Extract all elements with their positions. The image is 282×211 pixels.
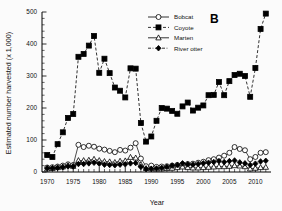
data-point — [71, 112, 76, 117]
y-axis-title: Estimated number harvested (x 1,000) — [4, 32, 13, 154]
data-point — [97, 70, 102, 75]
data-point — [138, 121, 143, 126]
data-point — [92, 144, 97, 149]
data-point — [118, 88, 123, 93]
data-point — [180, 104, 185, 109]
data-point — [133, 141, 138, 146]
y-tick-label: 100 — [26, 136, 37, 143]
data-point — [242, 148, 247, 153]
data-point — [128, 66, 133, 71]
data-point — [222, 153, 227, 158]
data-point — [164, 106, 169, 111]
data-point — [55, 142, 60, 147]
data-point — [190, 108, 195, 113]
data-point — [112, 150, 117, 155]
y-tick-label: 500 — [26, 8, 37, 15]
x-tick-labels: 197019751980198519901995200020052010 — [40, 178, 263, 185]
x-tick-label: 2005 — [222, 178, 237, 185]
x-tick-label: 1980 — [92, 178, 107, 185]
data-point — [97, 146, 102, 151]
data-point — [237, 71, 242, 76]
data-point — [149, 134, 154, 139]
y-tick-label: 400 — [26, 40, 37, 47]
data-point — [92, 34, 97, 39]
legend-marker — [156, 15, 161, 20]
x-tick-label: 1990 — [144, 178, 159, 185]
x-axis-title: Year — [150, 198, 165, 207]
panel-label: B — [210, 12, 219, 26]
legend-label: Bobcat — [174, 13, 194, 20]
data-point — [170, 108, 175, 113]
data-point — [206, 93, 211, 98]
y-tick-label: 200 — [26, 104, 37, 111]
legend-marker — [156, 25, 161, 30]
x-tick-label: 1970 — [40, 178, 55, 185]
data-point — [102, 56, 107, 61]
data-point — [185, 100, 190, 105]
data-point — [81, 51, 86, 56]
data-point — [50, 154, 55, 159]
data-point — [66, 115, 71, 120]
x-tick-label: 2010 — [248, 178, 263, 185]
data-point — [258, 26, 263, 31]
y-tick-label: 0 — [33, 168, 37, 175]
data-point — [232, 145, 237, 150]
data-point — [144, 139, 149, 144]
figure-panel-b: 197019751980198519901995200020052010 010… — [0, 0, 282, 211]
x-tick-label: 1995 — [170, 178, 185, 185]
data-point — [227, 150, 232, 155]
data-point — [128, 145, 133, 150]
data-point — [232, 73, 237, 78]
data-point — [159, 106, 164, 111]
data-point — [211, 92, 216, 97]
data-point — [216, 80, 221, 85]
data-point — [107, 148, 112, 153]
data-point — [222, 93, 227, 98]
data-point — [154, 118, 159, 123]
data-point — [138, 156, 143, 161]
data-point — [201, 103, 206, 108]
legend-label: Marten — [174, 34, 194, 41]
legend-label: River otter — [174, 45, 203, 52]
data-point — [263, 150, 268, 155]
data-point — [45, 153, 50, 158]
data-point — [248, 94, 253, 99]
data-point — [112, 85, 117, 90]
data-point — [196, 105, 201, 110]
data-point — [227, 79, 232, 84]
data-point — [76, 142, 81, 147]
data-point — [107, 71, 112, 76]
data-point — [253, 154, 258, 159]
x-tick-label: 2000 — [196, 178, 211, 185]
data-point — [86, 143, 91, 148]
y-tick-label: 300 — [26, 72, 37, 79]
data-point — [86, 43, 91, 48]
data-point — [123, 95, 128, 100]
x-tick-label: 1975 — [66, 178, 81, 185]
data-point — [175, 111, 180, 116]
chart-canvas: 197019751980198519901995200020052010 010… — [0, 0, 282, 211]
data-point — [242, 74, 247, 79]
data-point — [60, 130, 65, 135]
data-point — [118, 147, 123, 152]
data-point — [237, 146, 242, 151]
data-point — [258, 150, 263, 155]
data-point — [133, 66, 138, 71]
data-point — [253, 66, 258, 71]
data-point — [102, 147, 107, 152]
legend-label: Coyote — [174, 24, 194, 31]
data-point — [263, 11, 268, 16]
x-tick-label: 1985 — [118, 178, 133, 185]
data-point — [123, 148, 128, 153]
data-point — [81, 145, 86, 150]
data-point — [76, 54, 81, 59]
data-point — [248, 157, 253, 162]
